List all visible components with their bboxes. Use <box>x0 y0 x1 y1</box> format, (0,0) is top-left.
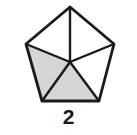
figure-container: 2 <box>0 0 137 135</box>
figure-number-label: 2 <box>0 104 137 130</box>
pentagon-diagram <box>0 0 137 110</box>
